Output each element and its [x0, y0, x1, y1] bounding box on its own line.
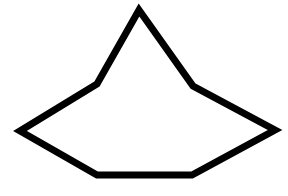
heptagon-shape — [20, 10, 275, 175]
polygon-diagram — [0, 0, 288, 196]
diagram-canvas — [0, 0, 288, 196]
